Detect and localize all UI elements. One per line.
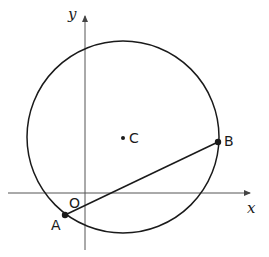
center-label: C: [129, 130, 139, 146]
origin-label: O: [69, 195, 80, 211]
x-axis-label: x: [247, 199, 256, 217]
chord-ab: [65, 142, 218, 215]
y-axis-label: y: [67, 5, 77, 23]
point-b: [215, 139, 221, 145]
point-b-label: B: [224, 133, 234, 149]
coordinate-diagram: y x O C A B: [0, 0, 269, 257]
center-point-c: [121, 136, 125, 140]
point-a: [62, 212, 68, 218]
point-a-label: A: [51, 217, 61, 233]
